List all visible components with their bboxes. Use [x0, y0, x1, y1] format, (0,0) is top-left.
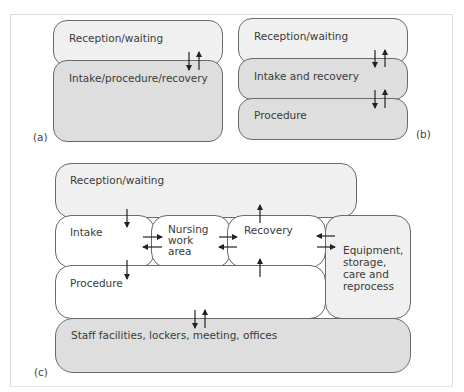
panel-c-recovery-label: Recovery	[244, 224, 293, 237]
panel-a-label: (a)	[33, 131, 48, 143]
panel-c-recovery-room: Recovery	[227, 215, 326, 268]
panel-c-reception-room: Reception/waiting	[55, 163, 357, 218]
panel-b-procedure-room: Procedure	[238, 98, 408, 140]
panel-c-intake-room: Intake	[55, 215, 155, 268]
panel-c-staff-room: Staff facilities, lockers, meeting, offi…	[55, 318, 411, 373]
panel-c-intake-label: Intake	[70, 226, 102, 239]
panel-c-label: (c)	[34, 366, 48, 378]
panel-b-label: (b)	[416, 128, 431, 140]
panel-c-nursing-label-3: area	[168, 245, 191, 258]
panel-a-reception-label: Reception/waiting	[69, 32, 163, 45]
panel-c-reception-label: Reception/waiting	[70, 174, 164, 187]
panel-c-procedure-label: Procedure	[70, 277, 123, 290]
panel-a-intake-label: Intake/procedure/recovery	[69, 72, 208, 85]
panel-b-reception-label: Reception/waiting	[254, 30, 348, 43]
panel-b-intake-recovery-label: Intake and recovery	[254, 70, 359, 83]
panel-c-procedure-room: Procedure	[55, 265, 326, 319]
panel-c-staff-label: Staff facilities, lockers, meeting, offi…	[71, 329, 277, 342]
panel-c-nursing-room: Nursing work area	[151, 215, 231, 268]
panel-b-procedure-label: Procedure	[254, 109, 307, 122]
panel-a-intake-room: Intake/procedure/recovery	[53, 60, 223, 142]
panel-c-equipment-label-4: reprocess	[343, 280, 394, 293]
panel-b-intake-recovery-room: Intake and recovery	[238, 58, 408, 100]
panel-c-equipment-room: Equipment, storage, care and reprocess	[325, 215, 411, 319]
